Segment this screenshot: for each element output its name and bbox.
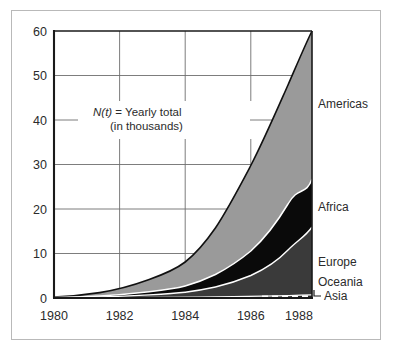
x-axis-tick-labels: 1980 1982 1984 1986 1988 <box>40 309 313 323</box>
ytick-label-50: 50 <box>33 69 47 83</box>
ytick-label-60: 60 <box>33 25 47 39</box>
series-labels: Americas Africa Europe Oceania Asia <box>314 97 368 303</box>
stacked-area-chart: 60 50 40 30 20 10 0 1980 1982 1984 1986 … <box>0 0 394 352</box>
figure-container: 60 50 40 30 20 10 0 1980 1982 1984 1986 … <box>0 0 394 352</box>
asia-leader-line <box>314 290 321 296</box>
ytick-label-10: 10 <box>33 247 47 261</box>
series-label-africa: Africa <box>318 200 349 214</box>
xtick-label-1982: 1982 <box>106 309 134 323</box>
ytick-label-30: 30 <box>33 158 47 172</box>
ytick-label-40: 40 <box>33 114 47 128</box>
chart-annotation: N(t) = Yearly total (in thousands) <box>93 106 183 132</box>
xtick-label-1986: 1986 <box>237 309 265 323</box>
annotation-line-1: N(t) = Yearly total <box>93 106 182 118</box>
ytick-label-20: 20 <box>33 203 47 217</box>
series-label-americas: Americas <box>318 97 368 111</box>
ytick-label-0: 0 <box>40 292 47 306</box>
annotation-line-1-rest: = Yearly total <box>112 106 181 118</box>
xtick-label-1984: 1984 <box>171 309 199 323</box>
series-label-oceania: Oceania <box>318 275 363 289</box>
y-axis-tick-labels: 60 50 40 30 20 10 0 <box>33 25 47 306</box>
xtick-label-1988: 1988 <box>285 309 313 323</box>
series-label-europe: Europe <box>318 255 357 269</box>
xtick-label-1980: 1980 <box>40 309 68 323</box>
annotation-line-2: (in thousands) <box>110 120 183 132</box>
annotation-variable: N(t) <box>93 106 112 118</box>
series-label-asia: Asia <box>324 289 348 303</box>
